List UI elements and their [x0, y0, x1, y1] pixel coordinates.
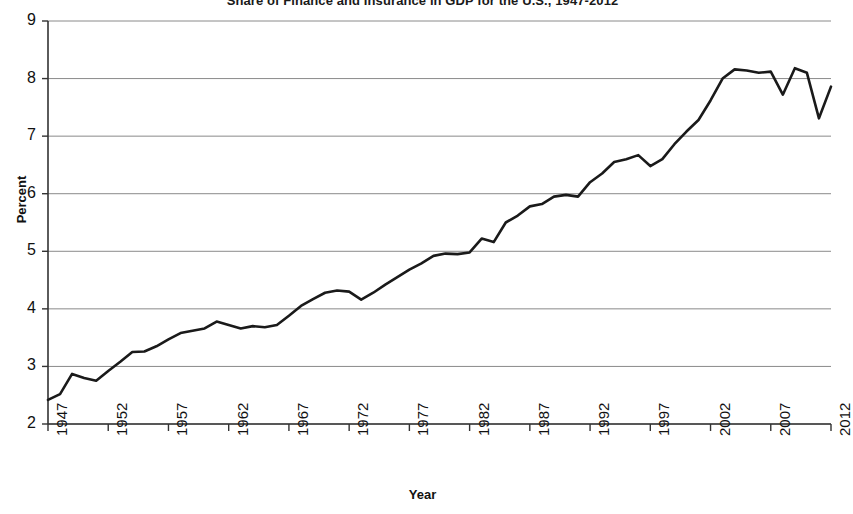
x-tick-label: 1972: [355, 403, 370, 436]
data-series: [48, 68, 831, 400]
y-tick-label: 3: [6, 357, 36, 373]
y-tick-label: 4: [6, 300, 36, 316]
x-tick-label: 1952: [114, 403, 129, 436]
gridlines: [48, 21, 831, 424]
x-tick-label: 1977: [415, 403, 430, 436]
x-tick-label: 1957: [174, 403, 189, 436]
x-axis-ticks: [48, 424, 831, 431]
x-tick-label: 1962: [235, 403, 250, 436]
y-tick-label: 8: [6, 70, 36, 86]
x-tick-label: 1997: [656, 403, 671, 436]
axis-lines: [48, 21, 831, 424]
x-tick-label: 1982: [476, 403, 491, 436]
x-tick-label: 1987: [536, 403, 551, 436]
y-tick-label: 6: [6, 185, 36, 201]
x-tick-label: 1967: [295, 403, 310, 436]
y-tick-label: 9: [6, 12, 36, 28]
series-line: [48, 68, 831, 400]
x-tick-label: 1947: [54, 403, 69, 436]
y-tick-label: 7: [6, 127, 36, 143]
x-tick-label: 2002: [717, 403, 732, 436]
y-tick-label: 5: [6, 242, 36, 258]
y-tick-label: 2: [6, 415, 36, 431]
x-tick-label: 2007: [777, 403, 792, 436]
x-tick-label: 2012: [837, 403, 852, 436]
y-axis-ticks: [42, 21, 48, 424]
x-tick-label: 1992: [596, 403, 611, 436]
